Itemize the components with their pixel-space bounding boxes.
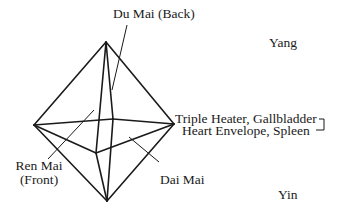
edge-top-back — [106, 42, 113, 119]
edge-top-left — [34, 42, 106, 125]
edge-back-bottom — [107, 119, 113, 201]
bracket — [316, 119, 324, 130]
edge-left-back — [34, 119, 113, 125]
edge-back-right — [113, 119, 174, 124]
edge-front-bottom — [96, 153, 107, 201]
label-yang: Yang — [269, 36, 297, 50]
label-du-mai: Du Mai (Back) — [113, 7, 195, 21]
label-ren-mai-line1: Ren Mai — [14, 159, 64, 173]
label-heart-envelope: Heart Envelope, Spleen — [182, 124, 310, 138]
edge-top-front — [96, 42, 106, 153]
leader-du-mai — [112, 25, 127, 90]
edge-top-right — [106, 42, 174, 124]
label-yin: Yin — [278, 188, 298, 202]
label-ren-mai-line2: (Front) — [14, 173, 64, 187]
edge-right-bottom — [107, 124, 174, 201]
label-dai-mai: Dai Mai — [160, 173, 205, 187]
edge-left-front — [34, 125, 96, 153]
label-ren-mai: Ren Mai (Front) — [14, 159, 64, 187]
